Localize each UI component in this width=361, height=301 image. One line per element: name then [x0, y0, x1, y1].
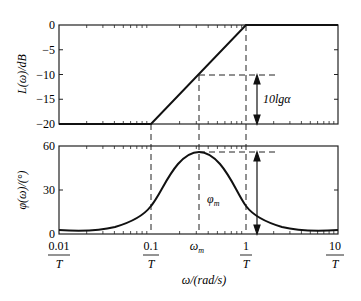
magnitude-ytick-labels: 0 −5 −10 −15 −20: [36, 18, 55, 131]
phase-ytick-labels: 60 30 0: [43, 139, 55, 241]
svg-text:T: T: [332, 257, 340, 271]
svg-text:−10: −10: [36, 68, 55, 82]
svg-text:T: T: [243, 257, 251, 271]
svg-text:ωm: ωm: [190, 239, 204, 255]
x-axis-labels: 0.01 T 0.1 T ωm 1 T 10 T ω/(rad/s): [48, 239, 344, 287]
svg-text:−15: −15: [36, 92, 55, 106]
xtick-1-over-t: 1 T: [240, 239, 252, 271]
magnitude-reference-lines: [199, 25, 277, 124]
svg-text:60: 60: [43, 139, 55, 153]
svg-text:30: 30: [43, 183, 55, 197]
magnitude-chart: 0 −5 −10 −15 −20 L(ω)/dB 10lgα: [15, 18, 338, 131]
phi-m-label: φm: [207, 192, 220, 208]
xtick-0-1-over-t: 0.1 T: [143, 239, 159, 271]
xtick-omega-m: ωm: [190, 239, 204, 255]
svg-text:10: 10: [329, 239, 341, 253]
ten-lg-alpha-label: 10lgα: [263, 92, 291, 106]
svg-text:0: 0: [49, 18, 55, 32]
phi-m-arrow: [254, 152, 260, 234]
phase-ylabel: φ(ω)/(°): [15, 170, 29, 209]
svg-text:−5: −5: [42, 43, 55, 57]
svg-text:1: 1: [243, 239, 249, 253]
magnitude-ylabel: L(ω)/dB: [15, 53, 29, 94]
svg-text:0.1: 0.1: [144, 239, 159, 253]
svg-text:T: T: [56, 257, 64, 271]
bode-plot: 0 −5 −10 −15 −20 L(ω)/dB 10lgα: [0, 0, 361, 301]
xtick-10-over-t: 10 T: [326, 239, 344, 271]
phase-xticks: [87, 146, 334, 234]
ten-lg-alpha-arrow: [254, 75, 260, 124]
xtick-0-01-over-t: 0.01 T: [48, 239, 70, 271]
x-axis-title: ω/(rad/s): [182, 273, 226, 287]
svg-text:T: T: [148, 257, 156, 271]
phase-chart: φm 60 30 0 φ(ω)/(°): [15, 124, 338, 241]
svg-text:0.01: 0.01: [49, 239, 70, 253]
svg-text:−20: −20: [36, 117, 55, 131]
